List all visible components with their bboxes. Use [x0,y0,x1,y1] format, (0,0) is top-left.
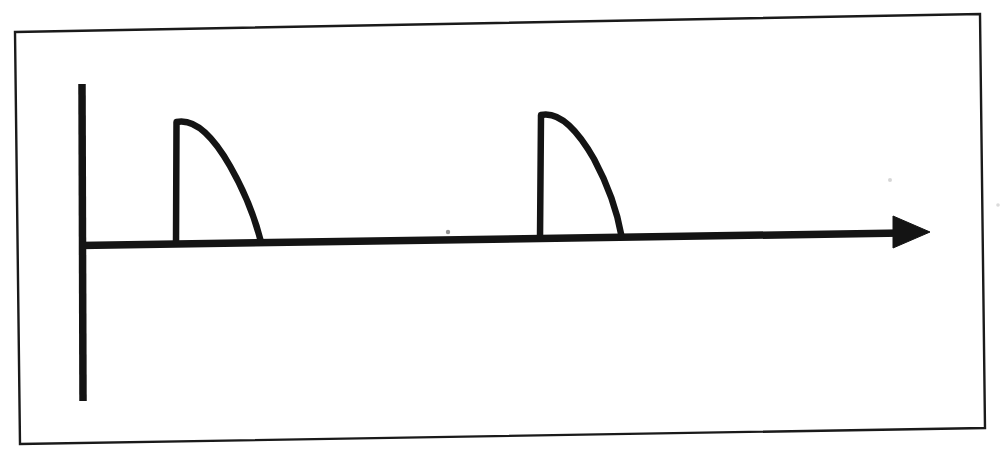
paper-background [0,0,1003,455]
paper-speck-icon [446,230,450,234]
waveform-diagram [0,0,1003,455]
paper-speck-icon [888,178,892,182]
figure-canvas [0,0,1003,455]
paper-speck-icon [996,203,1000,207]
